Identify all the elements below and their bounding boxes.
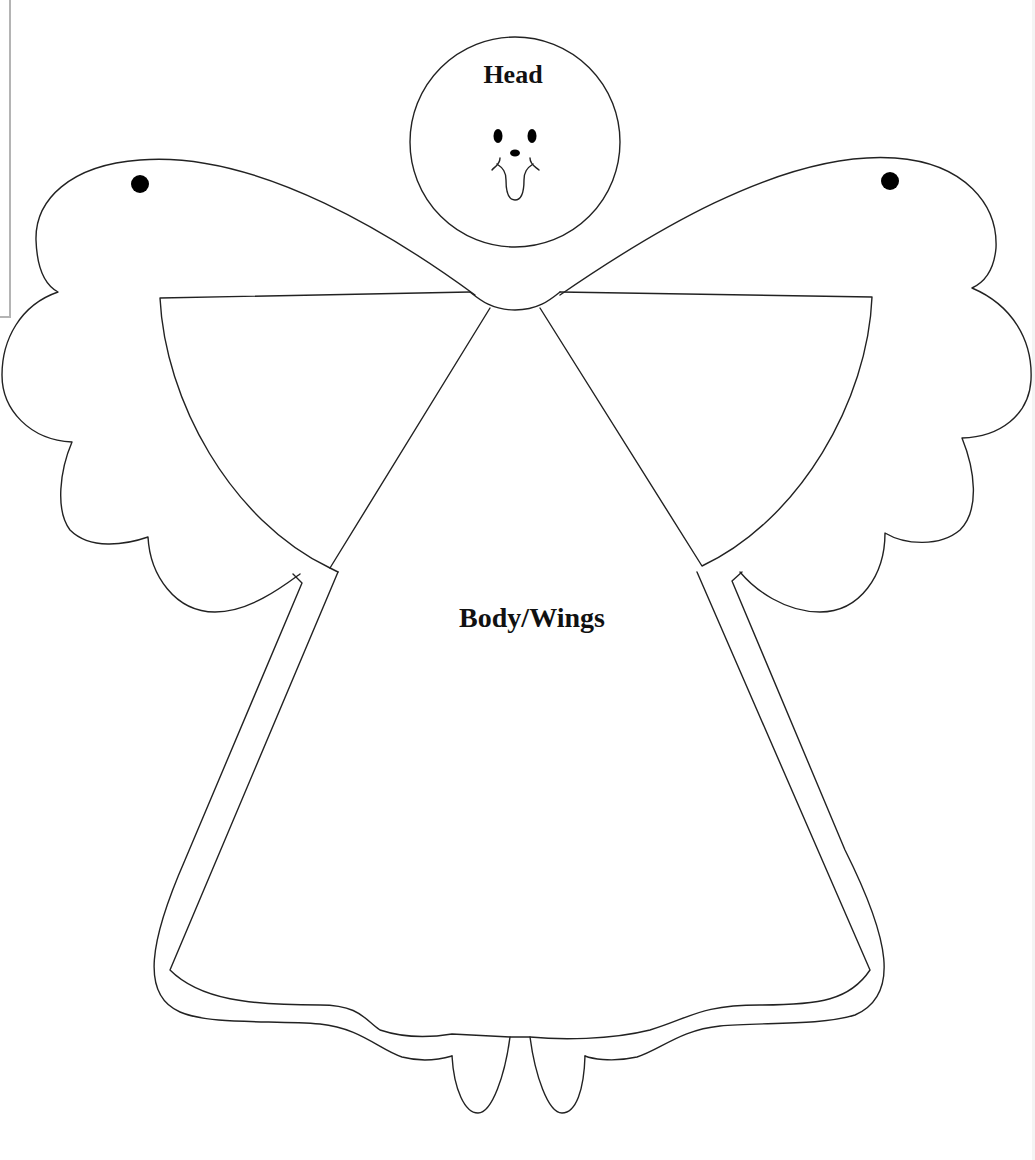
- dress-outer-right: [585, 572, 884, 1060]
- nose-icon: [510, 150, 520, 157]
- collar: [470, 292, 560, 310]
- feet: [452, 1037, 585, 1113]
- angel-pattern: Head Body/Wings: [0, 0, 1035, 1160]
- face: [492, 129, 539, 200]
- left-foot: [452, 1037, 510, 1113]
- body-label: Body/Wings: [459, 602, 605, 633]
- right-arm: [540, 292, 872, 566]
- smile-icon: [492, 158, 539, 200]
- right-wing-hole-icon: [881, 172, 899, 190]
- right-wing: [560, 158, 1031, 612]
- right-eye-icon: [528, 129, 537, 143]
- dress-inner: [170, 572, 870, 1039]
- left-eye-icon: [494, 129, 503, 143]
- dress-outer-left: [154, 574, 452, 1060]
- wings-outline: [2, 158, 1031, 612]
- right-foot: [530, 1037, 585, 1113]
- head-label: Head: [483, 60, 543, 89]
- dress-outer: [330, 568, 338, 572]
- left-wing-hole-icon: [131, 175, 149, 193]
- arms: [160, 292, 872, 568]
- left-wing: [2, 159, 475, 612]
- left-arm: [160, 292, 490, 568]
